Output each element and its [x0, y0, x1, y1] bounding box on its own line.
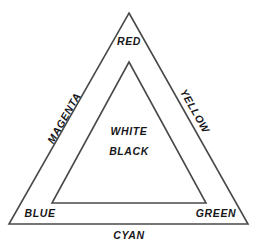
- label-red: RED: [117, 36, 141, 47]
- label-blue: BLUE: [25, 208, 56, 219]
- label-white: WHITE: [111, 126, 148, 137]
- label-green: GREEN: [196, 208, 236, 219]
- label-black: BLACK: [109, 146, 149, 157]
- color-triangle-diagram: RED MAGENTA YELLOW CYAN BLUE GREEN WHITE…: [0, 0, 258, 244]
- label-cyan: CYAN: [113, 230, 144, 241]
